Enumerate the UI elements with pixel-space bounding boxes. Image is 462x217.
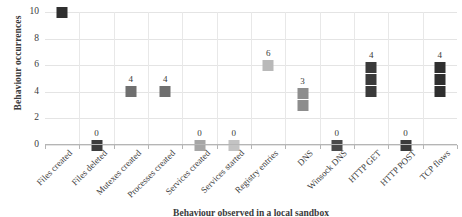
gridline-vertical [423,12,424,145]
data-point-label: 4 [129,75,134,84]
y-axis-tick-label: 2 [19,114,39,124]
x-axis-label-text: DNS [295,148,315,168]
marker-square [297,100,308,111]
plot-area: 0246810 04400630404 [45,12,457,145]
data-point-marker [57,7,68,18]
marker-square [434,86,445,97]
data-point-label: 0 [94,129,99,138]
data-point-label: 6 [266,49,271,58]
marker-square [434,62,445,73]
data-point-label: 0 [197,129,202,138]
x-axis-label-text: Files created [35,148,74,187]
marker-square [434,74,445,85]
x-axis-label: HTTP GET [347,148,384,185]
data-point-label: 0 [403,129,408,138]
y-axis-tick-label: 6 [19,60,39,70]
data-point-label: 0 [335,129,340,138]
x-axis-label-text: TCP flows [418,148,452,182]
x-axis-line [45,144,457,145]
gridline-vertical [285,12,286,145]
data-point-label: 4 [438,51,443,60]
data-point-marker [366,62,377,97]
marker-square [366,86,377,97]
marker-square [366,62,377,73]
x-axis-label-text: HTTP POST [378,148,418,188]
x-axis-label: DNS [295,148,315,168]
gridline-vertical [320,12,321,145]
gridline-vertical [354,12,355,145]
y-axis-tick-label: 4 [19,87,39,97]
marker-square [263,60,274,71]
marker-square [160,86,171,97]
y-axis-tick-label: 8 [19,34,39,44]
data-point-label: 3 [300,77,305,86]
gridline-vertical [114,12,115,145]
marker-square [297,88,308,99]
data-point-marker [297,88,308,111]
marker-square [125,86,136,97]
gridline-vertical [251,12,252,145]
marker-square [57,7,68,18]
data-point-marker [160,86,171,97]
gridline-vertical [217,12,218,145]
gridline-vertical [388,12,389,145]
x-axis-label: HTTP POST [378,148,418,188]
data-point-label: 4 [369,51,374,60]
data-point-marker [125,86,136,97]
data-point-marker [263,60,274,71]
marker-square [366,74,377,85]
data-point-label: 0 [232,129,237,138]
x-axis-label: Files created [35,148,74,187]
x-axis-label: TCP flows [418,148,452,182]
x-axis-tick-mark [457,145,458,149]
gridline-vertical [182,12,183,145]
gridline-vertical [148,12,149,145]
behaviour-occurrences-chart: Behaviour occurrences 0246810 0440063040… [0,0,462,217]
y-axis-tick-label: 10 [19,7,39,17]
x-axis-category-labels: Files createdFiles deletedMutexes create… [45,148,457,210]
x-axis-label-text: HTTP GET [347,148,384,185]
data-point-label: 4 [163,75,168,84]
y-axis-tick-label: 0 [19,140,39,150]
data-point-marker [434,62,445,97]
gridline-vertical [79,12,80,145]
x-axis-title: Behaviour observed in a local sandbox [45,208,457,217]
